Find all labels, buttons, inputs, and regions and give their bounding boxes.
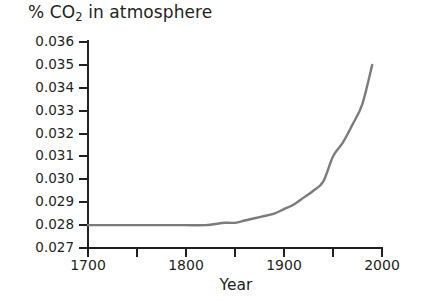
y-tick-mark xyxy=(79,110,88,112)
y-tick-label: 0.033 xyxy=(22,104,74,118)
x-tick-mark xyxy=(87,248,89,257)
y-tick-mark xyxy=(79,64,88,66)
y-tick-label: 0.034 xyxy=(22,81,74,95)
y-tick-label: 0.035 xyxy=(22,58,74,72)
x-tick-label: 2000 xyxy=(352,258,412,272)
x-tick-mark xyxy=(381,248,383,257)
y-tick-mark xyxy=(79,87,88,89)
chart-title: % CO2 in atmosphere xyxy=(28,2,212,22)
y-tick-mark xyxy=(79,41,88,43)
y-tick-label: 0.027 xyxy=(22,241,74,255)
y-tick-label: 0.032 xyxy=(22,127,74,141)
y-tick-mark xyxy=(79,224,88,226)
x-axis-title: Year xyxy=(0,276,434,294)
chart-title-subscript: 2 xyxy=(75,10,82,24)
y-tick-mark xyxy=(79,201,88,203)
y-tick-label: 0.028 xyxy=(22,218,74,232)
x-tick-label: 1700 xyxy=(58,258,118,272)
chart-title-prefix: % CO xyxy=(28,2,75,22)
co2-line-chart: % CO2 in atmosphere 0.0270.0280.0290.030… xyxy=(0,0,434,302)
y-tick-label: 0.029 xyxy=(22,195,74,209)
chart-title-suffix: in atmosphere xyxy=(83,2,213,22)
y-tick-label: 0.036 xyxy=(22,35,74,49)
x-tick-label: 1800 xyxy=(156,258,216,272)
co2-series-line xyxy=(88,65,372,225)
y-tick-mark xyxy=(79,178,88,180)
x-tick-mark xyxy=(185,248,187,257)
x-tick-mark xyxy=(136,248,138,257)
y-tick-mark xyxy=(79,155,88,157)
y-tick-label: 0.030 xyxy=(22,172,74,186)
x-tick-mark xyxy=(332,248,334,257)
y-axis-line xyxy=(87,40,89,249)
y-tick-mark xyxy=(79,133,88,135)
x-tick-mark xyxy=(283,248,285,257)
y-tick-label: 0.031 xyxy=(22,149,74,163)
x-tick-label: 1900 xyxy=(254,258,314,272)
x-tick-mark xyxy=(234,248,236,257)
